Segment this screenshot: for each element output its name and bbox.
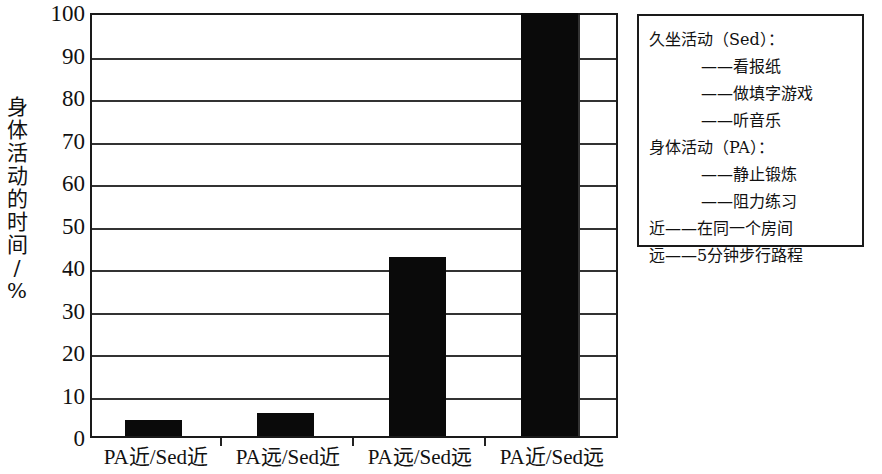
x-axis-tick-labels: PA近/Sed近PA远/Sed近PA远/Sed远PA近/Sed远	[90, 444, 618, 474]
y-tick-label: 60	[30, 172, 85, 195]
y-tick-label: 0	[30, 427, 85, 450]
y-tick-label: 10	[30, 385, 85, 408]
y-axis-tick-labels: 1009080706050403020100	[30, 0, 85, 474]
bar-chart-figure: 身 体 活 动 的 时 间 / % 1009080706050403020100…	[0, 0, 882, 474]
x-tick-label: PA远/Sed近	[216, 444, 360, 470]
x-tick-label: PA近/Sed远	[480, 444, 624, 470]
legend-entry: 近——在同一个房间	[649, 215, 856, 242]
legend-entry: 身体活动（PA）：	[649, 134, 856, 161]
plot-inner-vertical-line	[578, 15, 580, 436]
legend-entry: ——阻力练习	[649, 188, 856, 215]
x-tick-label: PA远/Sed远	[348, 444, 492, 470]
bar	[257, 413, 314, 437]
y-tick-label: 70	[30, 130, 85, 153]
bar	[125, 420, 182, 436]
y-tick-label: 20	[30, 342, 85, 365]
plot-area	[90, 13, 618, 438]
bar	[389, 257, 446, 436]
legend-entry: ——做填字游戏	[649, 80, 856, 107]
legend-entry: ——静止锻炼	[649, 161, 856, 188]
y-tick-label: 100	[30, 2, 85, 25]
x-tick-label: PA近/Sed近	[84, 444, 228, 470]
legend-entry: 久坐活动（Sed）：	[649, 26, 856, 53]
y-tick-label: 80	[30, 87, 85, 110]
legend-entry: ——看报纸	[649, 53, 856, 80]
legend-entry: ——听音乐	[649, 107, 856, 134]
legend-entry: 远——5分钟步行路程	[649, 242, 856, 269]
y-tick-label: 30	[30, 300, 85, 323]
y-tick-label: 90	[30, 45, 85, 68]
y-tick-label: 50	[30, 215, 85, 238]
bar	[521, 13, 578, 436]
legend-box: 久坐活动（Sed）：——看报纸——做填字游戏——听音乐身体活动（PA）：——静止…	[637, 14, 864, 247]
y-tick-label: 40	[30, 257, 85, 280]
y-axis-title: 身 体 活 动 的 时 间 / %	[2, 96, 32, 303]
